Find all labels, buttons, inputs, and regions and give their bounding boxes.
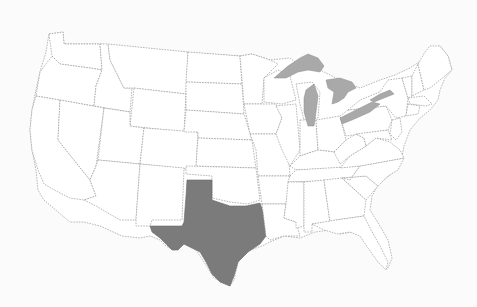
state-iowa [244, 104, 282, 134]
state-arkansas [258, 176, 290, 204]
state-maine [418, 46, 452, 90]
state-north-dakota [186, 52, 242, 84]
state-wyoming [130, 88, 186, 132]
state-south-dakota [186, 82, 244, 114]
state-new-mexico [136, 164, 184, 226]
state-kansas [196, 138, 256, 168]
state-colorado [140, 128, 198, 170]
us-map [0, 0, 477, 307]
